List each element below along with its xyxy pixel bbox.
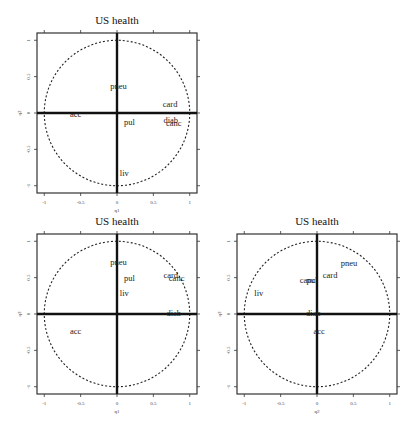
- variable-label: liv: [120, 288, 130, 298]
- y-tick-label: 1: [26, 240, 31, 243]
- y-axis-label: q2: [17, 110, 22, 116]
- y-tick-label: 0.5: [226, 274, 231, 281]
- correlation-circle-plot-3: US health-1-1-0.5-0.5000.50.511q2q3pneuc…: [207, 209, 407, 419]
- x-tick-label: 0: [116, 401, 119, 406]
- y-tick-label: -1: [226, 384, 231, 389]
- variable-label: canc: [166, 118, 182, 128]
- x-axis-label: q2: [315, 409, 321, 414]
- x-tick-label: -0.5: [77, 401, 85, 406]
- correlation-circle-plot-2: US health-1-1-0.5-0.5000.50.511q1q3pneup…: [7, 209, 207, 419]
- y-tick-label: 0: [226, 312, 231, 315]
- y-tick-label: -0.5: [26, 145, 31, 153]
- x-tick-label: -1: [242, 401, 247, 406]
- variable-label: acc: [70, 109, 82, 119]
- chart-title: US health: [295, 215, 339, 227]
- x-tick-label: 0.5: [150, 200, 157, 205]
- x-tick-label: -1: [42, 401, 47, 406]
- variable-label: liv: [120, 168, 130, 178]
- y-tick-label: 0.5: [26, 73, 31, 80]
- x-tick-label: 1: [388, 401, 391, 406]
- variable-label: card: [323, 270, 338, 280]
- variable-label: pneu: [341, 258, 358, 268]
- variable-label: pneu: [110, 81, 127, 91]
- y-axis-label: q3: [217, 311, 222, 317]
- x-tick-label: -0.5: [77, 200, 85, 205]
- chart-title: US health: [95, 215, 139, 227]
- x-axis-label: q1: [115, 409, 121, 414]
- variable-label: acc: [70, 326, 82, 336]
- x-tick-label: 1: [188, 200, 191, 205]
- variable-label: liv: [254, 288, 264, 298]
- variable-label: card: [163, 99, 178, 109]
- chart-title: US health: [95, 14, 139, 26]
- variable-label: pul: [124, 117, 136, 127]
- x-tick-label: -0.5: [277, 401, 285, 406]
- x-tick-label: -1: [42, 200, 47, 205]
- y-tick-label: 1: [26, 39, 31, 42]
- variable-label: acc: [314, 326, 326, 336]
- variable-label: diab: [306, 308, 321, 318]
- y-tick-label: -1: [26, 384, 31, 389]
- y-tick-label: -0.5: [226, 346, 231, 354]
- x-tick-label: 0.5: [350, 401, 357, 406]
- x-tick-label: 1: [188, 401, 191, 406]
- variable-label: pul: [306, 275, 318, 285]
- x-tick-label: 0: [316, 401, 319, 406]
- y-tick-label: -1: [26, 183, 31, 188]
- correlation-circle-plot-1: US health-1-1-0.5-0.5000.50.511q1q2pneuc…: [7, 8, 207, 218]
- y-tick-label: -0.5: [26, 346, 31, 354]
- x-tick-label: 0: [116, 200, 119, 205]
- variable-label: pul: [124, 273, 136, 283]
- y-tick-label: 0: [26, 111, 31, 114]
- y-axis-label: q3: [17, 311, 22, 317]
- y-tick-label: 1: [226, 240, 231, 243]
- y-tick-label: 0.5: [26, 274, 31, 281]
- variable-label: pneu: [110, 257, 127, 267]
- y-tick-label: 0: [26, 312, 31, 315]
- variable-label: diab: [166, 308, 181, 318]
- variable-label: canc: [169, 273, 185, 283]
- x-tick-label: 0.5: [150, 401, 157, 406]
